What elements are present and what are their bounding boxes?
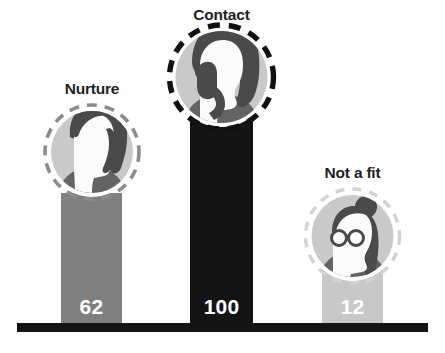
label-contact: Contact [193,6,249,23]
chart-canvas: 62 100 12 [0,0,445,353]
label-nurture: Nurture [65,80,120,97]
infographic-bar-chart: 62 100 12 [0,0,445,353]
avatar-nurture[interactable]: Nurture [45,80,139,222]
bar-group-contact[interactable]: 100 [190,118,253,324]
bar-value-contact: 100 [204,295,240,318]
bar-group-nurture[interactable]: 62 [61,193,122,324]
label-not-a-fit: Not a fit [325,164,381,181]
baseline-axis [17,323,428,332]
avatar-contact[interactable]: Contact [170,6,274,148]
bar-contact[interactable] [190,118,253,324]
bar-value-nurture: 62 [80,295,104,318]
bar-value-not-a-fit: 12 [341,295,365,318]
